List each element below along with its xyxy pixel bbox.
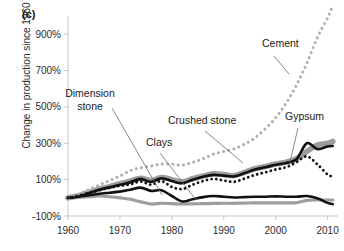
line-chart: -100%100%300%500%700%900%196019701980199… [0,0,344,251]
x-tick-label: 1970 [109,225,132,236]
y-tick-label: 500% [35,101,61,112]
y-tick-label: 100% [35,174,61,185]
y-tick-label: 700% [35,65,61,76]
y-tick-label: 900% [35,29,61,40]
annotation-label: Cement [262,37,299,49]
x-tick-label: 1980 [161,225,184,236]
annotation-label: Crushed stone [168,114,236,126]
x-tick-label: 1990 [213,225,236,236]
annotation-label: stone [77,100,103,112]
annotation-label: Gypsum [285,110,324,122]
y-tick-label: 300% [35,138,61,149]
annotation-leader-line [274,56,289,74]
annotation-crushed-stone: Crushed stone [168,114,243,163]
x-tick-label: 2000 [265,225,288,236]
annotation-cement: Cement [262,37,299,74]
x-tick-label: 1960 [57,225,80,236]
y-tick-label: -100% [32,211,61,222]
annotation-label: Dimension [65,87,115,99]
annotation-label: Clays [146,136,172,148]
x-tick-label: 2010 [316,225,339,236]
figure-panel: (c) Change in production since 1960 -100… [0,0,344,251]
series-line-cement [68,5,333,198]
